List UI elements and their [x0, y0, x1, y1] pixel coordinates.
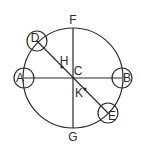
label-d: D — [31, 32, 40, 44]
label-b: B — [123, 72, 131, 84]
label-f: F — [69, 14, 76, 26]
geometry-diagram: F G A B C D E H K — [0, 0, 141, 149]
point-k-dot — [83, 87, 86, 90]
label-h: H — [60, 55, 69, 67]
label-c: C — [74, 65, 83, 77]
label-a: A — [16, 72, 24, 84]
label-e: E — [108, 110, 116, 122]
label-k: K — [75, 87, 83, 99]
label-g: G — [68, 131, 77, 143]
